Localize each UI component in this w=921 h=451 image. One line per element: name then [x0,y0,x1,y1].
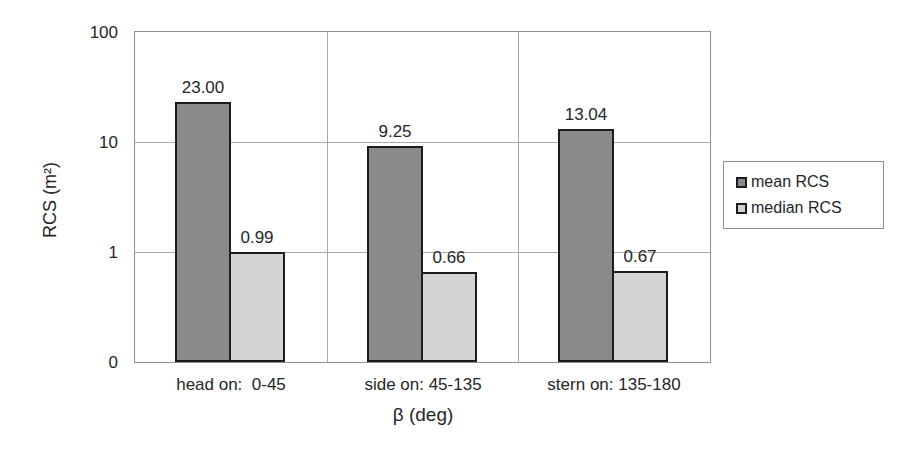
bar-value-label: 13.04 [565,105,608,125]
y-tick-label: 10 [0,134,118,151]
y-tick-label: 1 [0,244,118,261]
x-axis-title: β (deg) [393,404,454,426]
legend-label: median RCS [751,199,842,217]
rcs-bar-chart: RCS (m²) β (deg) mean RCSmedian RCS 1001… [0,0,921,451]
y-axis-title: RCS (m²) [40,162,61,238]
bar-mean-rcs-2 [558,129,614,362]
legend-swatch-icon [736,177,747,188]
bar-mean-rcs-0 [175,102,231,362]
bar-value-label: 23.00 [182,78,225,98]
bar-value-label: 0.99 [240,228,273,248]
v-gridline [327,32,328,362]
v-gridline [518,32,519,362]
legend-label: mean RCS [751,173,829,191]
category-label: stern on: 135-180 [547,375,680,395]
y-tick-label: 100 [0,24,118,41]
bar-median-rcs-2 [612,271,668,362]
legend-entry: median RCS [736,199,883,217]
bar-median-rcs-0 [229,252,285,362]
category-label: head on: 0-45 [176,375,286,395]
legend-entry: mean RCS [736,173,883,191]
legend: mean RCSmedian RCS [723,161,884,229]
category-label: side on: 45-135 [364,375,481,395]
bar-value-label: 0.67 [623,247,656,267]
bar-mean-rcs-1 [367,146,423,362]
bar-value-label: 9.25 [378,122,411,142]
bar-value-label: 0.66 [432,248,465,268]
legend-swatch-icon [736,203,747,214]
bar-median-rcs-1 [421,272,477,362]
y-tick-label: 0 [0,354,118,371]
